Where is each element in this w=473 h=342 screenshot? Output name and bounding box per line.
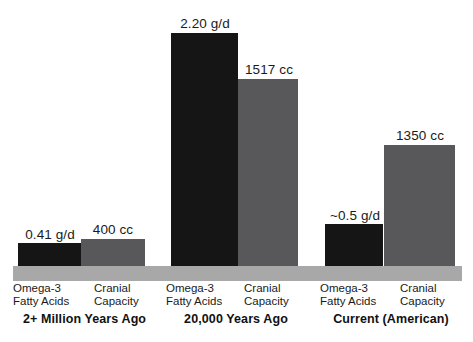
series-label-cranial-group-1: Cranial Capacity: [94, 282, 156, 307]
axis-label-band: Omega-3 Fatty Acids Cranial Capacity 2+ …: [0, 282, 473, 342]
value-label-cranial-group-1: 400 cc: [79, 222, 147, 237]
bar-cranial-capacity-group-2: [238, 79, 298, 266]
series-label-omega-line2: Fatty Acids: [13, 295, 81, 308]
series-labels-group-3: Omega-3 Fatty Acids Cranial Capacity: [320, 282, 462, 307]
bar-omega-3-fatty-acids-group-1: [18, 243, 81, 266]
category-group-2-million-years-ago: Omega-3 Fatty Acids Cranial Capacity 2+ …: [13, 282, 156, 342]
bar-cranial-capacity-group-3: [384, 145, 455, 266]
bar-omega-3-fatty-acids-group-2: [171, 33, 238, 266]
series-label-cranial-line1: Cranial: [400, 282, 436, 294]
series-labels-group-1: Omega-3 Fatty Acids Cranial Capacity: [13, 282, 156, 307]
series-label-cranial-line1: Cranial: [244, 282, 280, 294]
series-label-omega-group-1: Omega-3 Fatty Acids: [13, 282, 81, 307]
series-label-omega-line2: Fatty Acids: [166, 295, 234, 308]
bar-cranial-capacity-group-1: [81, 239, 145, 266]
series-label-omega-group-2: Omega-3 Fatty Acids: [166, 282, 234, 307]
bar-chart: 0.41 g/d 400 cc 2.20 g/d 1517 cc ~0.5 g/…: [0, 0, 473, 342]
group-title-2: 20,000 Years Ago: [166, 312, 306, 326]
category-group-20000-years-ago: Omega-3 Fatty Acids Cranial Capacity 20,…: [166, 282, 306, 342]
value-label-omega-group-3: ~0.5 g/d: [319, 208, 391, 223]
group-title-1: 2+ Million Years Ago: [13, 312, 156, 326]
value-label-cranial-group-3: 1350 cc: [385, 128, 455, 143]
series-label-cranial-line2: Capacity: [244, 295, 306, 308]
series-label-omega-line1: Omega-3: [166, 282, 214, 294]
series-label-cranial-group-2: Cranial Capacity: [244, 282, 306, 307]
series-label-omega-line1: Omega-3: [320, 282, 368, 294]
series-label-cranial-group-3: Cranial Capacity: [400, 282, 462, 307]
group-title-3: Current (American): [320, 312, 462, 326]
bar-omega-3-fatty-acids-group-3: [325, 224, 383, 266]
series-label-omega-group-3: Omega-3 Fatty Acids: [320, 282, 388, 307]
series-label-cranial-line1: Cranial: [94, 282, 130, 294]
value-label-omega-group-1: 0.41 g/d: [14, 227, 86, 242]
series-label-omega-line2: Fatty Acids: [320, 295, 388, 308]
series-label-cranial-line2: Capacity: [94, 295, 156, 308]
series-label-omega-line1: Omega-3: [13, 282, 61, 294]
value-label-cranial-group-2: 1517 cc: [237, 62, 301, 77]
series-labels-group-2: Omega-3 Fatty Acids Cranial Capacity: [166, 282, 306, 307]
series-label-cranial-line2: Capacity: [400, 295, 462, 308]
plot-area: 0.41 g/d 400 cc 2.20 g/d 1517 cc ~0.5 g/…: [0, 0, 473, 282]
value-label-omega-group-2: 2.20 g/d: [167, 16, 243, 31]
category-group-current-american: Omega-3 Fatty Acids Cranial Capacity Cur…: [320, 282, 462, 342]
baseline-platform: [13, 266, 462, 281]
